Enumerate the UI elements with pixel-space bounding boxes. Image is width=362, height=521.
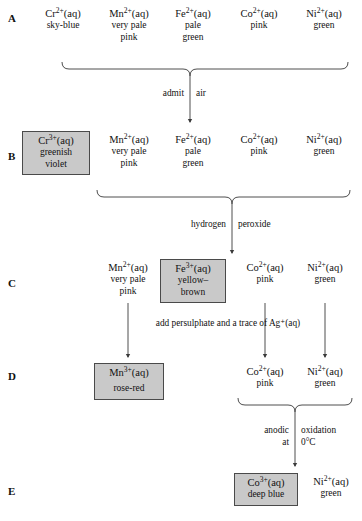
colour-line: pink — [97, 32, 161, 43]
colour-line: violet — [27, 159, 85, 170]
species-c-mn2: Mn2+(aq) very palepink — [96, 262, 160, 297]
row-letter-b: B — [8, 150, 16, 162]
reagent-line: anodic — [233, 425, 289, 437]
species-c-fe3-boxed: Fe3+(aq) yellow–brown — [160, 259, 226, 303]
formula-state: (aq) — [326, 262, 343, 273]
formula-state: (aq) — [325, 8, 342, 19]
row-letter-d: D — [8, 370, 16, 382]
reagent-line: oxidation — [301, 425, 361, 437]
species-b-cr3-boxed: Cr3+(aq) greenishviolet — [22, 131, 90, 175]
reagent-hydrogen-peroxide-right: peroxide — [238, 219, 302, 231]
formula-state: (aq) — [267, 262, 284, 273]
colour-line: deep blue — [239, 489, 293, 500]
species-a-co2: Co2+(aq) pink — [228, 8, 290, 32]
formula-charge: 2+ — [124, 132, 132, 141]
formula-charge: 2+ — [253, 6, 261, 15]
formula-element: Ni — [306, 8, 317, 19]
row-letter-e: E — [8, 485, 16, 497]
formula-element: Mn — [109, 8, 124, 19]
formula-state: (aq) — [194, 263, 211, 274]
species-a-ni2: Ni2+(aq) green — [293, 8, 355, 32]
formula-state: (aq) — [267, 366, 284, 377]
formula-element: Mn — [108, 262, 123, 273]
formula-charge: 2+ — [317, 132, 325, 141]
formula-charge: 2+ — [56, 6, 64, 15]
formula-element: Ni — [307, 366, 318, 377]
formula-charge: 2+ — [123, 260, 131, 269]
colour-line: pink — [97, 158, 161, 169]
row-letter-c: C — [8, 277, 16, 289]
colour-line: sky-blue — [32, 20, 94, 31]
species-e-co3-boxed: Co3+(aq) deep blue — [234, 473, 298, 506]
formula-element: Fe — [175, 263, 186, 274]
reagent-anodic-oxidation-right: oxidation 0°C — [301, 425, 361, 448]
formula-element: Cr — [45, 8, 56, 19]
formula-charge: 2+ — [259, 364, 267, 373]
species-a-mn2: Mn2+(aq) very palepink — [97, 8, 161, 43]
colour-line: pink — [228, 146, 290, 157]
formula-element: Fe — [175, 8, 186, 19]
formula-element: Fe — [175, 134, 186, 145]
formula-charge: 2+ — [317, 6, 325, 15]
colour-line: brown — [165, 287, 221, 298]
oxidation-state-flow-diagram: A B C D E Cr2+(aq) sky-blue Mn2+(aq) ver… — [0, 0, 362, 521]
colour-line: pink — [234, 274, 296, 285]
formula-charge: 3+ — [186, 261, 194, 270]
formula-state: (aq) — [132, 367, 149, 378]
formula-element: Co — [246, 262, 258, 273]
colour-line: yellow– — [165, 275, 221, 286]
formula-state: (aq) — [132, 8, 149, 19]
formula-charge: 2+ — [124, 6, 132, 15]
reagent-line: 0°C — [301, 437, 361, 449]
colour-line: very pale — [97, 20, 161, 31]
colour-line: very pale — [96, 274, 160, 285]
species-b-fe2: Fe2+(aq) palegreen — [162, 134, 224, 169]
formula-charge: 3+ — [124, 365, 132, 374]
reagent-persulphate: add persulphate and a trace of Ag⁺(aq) — [133, 318, 323, 330]
formula-state: (aq) — [132, 134, 149, 145]
colour-line: green — [162, 32, 224, 43]
species-b-mn2: Mn2+(aq) very palepink — [97, 134, 161, 169]
reagent-line: at — [233, 437, 289, 449]
formula-state: (aq) — [57, 135, 74, 146]
formula-state: (aq) — [261, 8, 278, 19]
formula-charge: 2+ — [318, 364, 326, 373]
formula-charge: 2+ — [186, 132, 194, 141]
formula-charge: 3+ — [49, 133, 57, 142]
colour-line: pink — [96, 286, 160, 297]
formula-state: (aq) — [64, 8, 81, 19]
species-d-co2: Co2+(aq) pink — [234, 366, 296, 390]
reagent-hydrogen-peroxide-left: hydrogen — [162, 219, 226, 231]
formula-charge: 2+ — [324, 474, 332, 483]
formula-charge: 2+ — [253, 132, 261, 141]
formula-state: (aq) — [131, 262, 148, 273]
colour-line: green — [293, 20, 355, 31]
formula-state: (aq) — [326, 366, 343, 377]
colour-line: pink — [234, 378, 296, 389]
formula-element: Ni — [307, 262, 318, 273]
row-letter-a: A — [8, 12, 16, 24]
species-a-cr2: Cr2+(aq) sky-blue — [32, 8, 94, 32]
formula-element: Ni — [306, 134, 317, 145]
formula-state: (aq) — [194, 134, 211, 145]
formula-element: Mn — [109, 134, 124, 145]
formula-state: (aq) — [194, 8, 211, 19]
species-c-ni2: Ni2+(aq) green — [294, 262, 356, 286]
species-b-co2: Co2+(aq) pink — [228, 134, 290, 158]
species-c-co2: Co2+(aq) pink — [234, 262, 296, 286]
colour-line: greenish — [27, 147, 85, 158]
formula-element: Mn — [109, 367, 124, 378]
colour-line: pale — [162, 20, 224, 31]
species-d-ni2: Ni2+(aq) green — [294, 366, 356, 390]
colour-line: pink — [228, 20, 290, 31]
colour-line: pale — [162, 146, 224, 157]
species-a-fe2: Fe2+(aq) palegreen — [162, 8, 224, 43]
formula-state: (aq) — [268, 477, 285, 488]
colour-line: green — [162, 158, 224, 169]
colour-line: green — [300, 488, 362, 499]
reagent-admit-air-right: air — [196, 88, 252, 100]
formula-charge: 2+ — [186, 6, 194, 15]
formula-element: Co — [240, 134, 252, 145]
colour-line: green — [293, 146, 355, 157]
formula-state: (aq) — [325, 134, 342, 145]
